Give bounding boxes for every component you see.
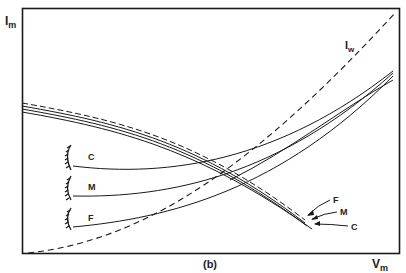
- curve-f: [73, 76, 393, 227]
- right-label-f: F: [333, 195, 339, 205]
- left-label-m: M: [88, 182, 96, 192]
- descending-curve-bundle: [22, 103, 312, 229]
- right-label-m: M: [340, 207, 348, 217]
- left-label-c: C: [88, 152, 95, 162]
- panel-label: (b): [203, 258, 217, 270]
- x-axis-label: Vm: [372, 257, 388, 273]
- diagram: Im Vm (b) Iw C M F: [0, 0, 406, 273]
- iw-curve-label: Iw: [345, 39, 355, 54]
- ascending-curves: [73, 71, 393, 227]
- right-label-c: C: [351, 222, 358, 232]
- electrode-hatch-marks: [65, 145, 71, 230]
- y-axis-label: Im: [5, 14, 16, 30]
- right-arrowheads: [307, 210, 320, 226]
- left-label-f: F: [88, 213, 94, 223]
